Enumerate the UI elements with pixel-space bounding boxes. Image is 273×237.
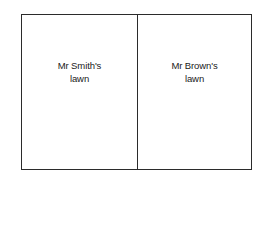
plot-mr-brown: Mr Brown's lawn <box>138 15 251 169</box>
plot-label-mr-brown: Mr Brown's lawn <box>171 60 217 85</box>
plot-mr-smith: Mr Smith's lawn <box>22 15 138 169</box>
scale-bar: Scale 0246810 yards <box>0 180 273 237</box>
plot-label-mr-smith: Mr Smith's lawn <box>58 60 102 85</box>
lawn-plan-rectangle: Mr Smith's lawn Mr Brown's lawn <box>21 14 252 170</box>
lawn-scale-diagram: Mr Smith's lawn Mr Brown's lawn Scale 02… <box>0 0 273 237</box>
